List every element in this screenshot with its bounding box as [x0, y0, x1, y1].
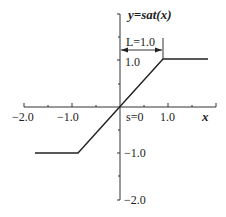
origin-label: s=0 [126, 110, 143, 124]
arrow-right-icon [155, 48, 162, 53]
x-axis-label: x [201, 109, 209, 124]
chart-title: y=sat(x) [126, 7, 172, 22]
y-tick-label-1: 1.0 [125, 55, 140, 69]
width-label: L=1.0 [126, 35, 155, 49]
y-tick-label-minus-1: −1.0 [124, 146, 146, 160]
saturation-curve [35, 59, 208, 153]
x-tick-label-minus-1: −1.0 [57, 110, 79, 124]
saturation-diagram: y=sat(x) L=1.0 1.0 −1.0 −2.0 −2.0 −1.0 s… [0, 0, 226, 217]
y-tick-label-minus-2: −2.0 [124, 193, 146, 207]
x-tick-label-minus-2: −2.0 [12, 110, 34, 124]
x-tick-label-1: 1.0 [160, 110, 175, 124]
